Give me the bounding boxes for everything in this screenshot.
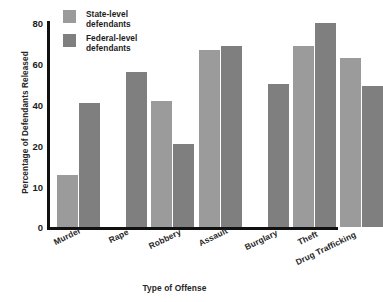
bar-drug-trafficking-federal	[362, 86, 383, 227]
y-tick-60: 60	[32, 58, 43, 69]
y-tick-40: 40	[32, 99, 43, 110]
y-tick-10: 10	[32, 181, 43, 192]
bar-assault-federal	[221, 46, 242, 227]
x-category-labels: MurderRapeRobberyAssaultBurglaryTheftDru…	[47, 228, 349, 284]
x-label-assault: Assault	[197, 225, 229, 248]
legend-item-federal-level: Federal-leveldefendants	[63, 33, 208, 54]
legend-item-state-level: State-leveldefendants	[63, 9, 208, 30]
x-label-burglary: Burglary	[243, 228, 279, 252]
x-axis-title: Type of Offense	[0, 283, 349, 293]
x-label-rape: Rape	[107, 227, 130, 245]
legend-label-line1: Federal-level	[86, 33, 137, 43]
bar-robbery-federal	[173, 144, 194, 227]
legend-label: State-leveldefendants	[86, 9, 131, 30]
legend-label-line2: defendants	[86, 19, 131, 29]
chart-legend: State-leveldefendantsFederal-leveldefend…	[63, 9, 208, 56]
bar-assault-state	[199, 50, 220, 227]
legend-swatch-icon	[63, 34, 76, 47]
legend-label: Federal-leveldefendants	[86, 33, 137, 54]
y-axis-title: Percentage of Defendants Released	[21, 28, 30, 218]
bar-robbery-state	[151, 101, 172, 227]
legend-swatch-icon	[63, 10, 76, 23]
x-label-robbery: Robbery	[147, 227, 183, 251]
bar-murder-state	[57, 175, 78, 227]
legend-label-line1: State-level	[86, 9, 131, 19]
bar-theft-federal	[315, 23, 336, 227]
y-tick-20: 20	[32, 141, 43, 152]
bar-murder-federal	[79, 103, 100, 227]
bar-drug-trafficking-state	[340, 58, 361, 227]
y-tick-0: 0	[38, 222, 43, 233]
bar-burglary-federal	[268, 84, 289, 227]
x-label-theft: Theft	[296, 229, 319, 247]
bar-theft-state	[293, 46, 314, 227]
x-label-murder: Murder	[52, 225, 82, 247]
bar-rape-federal	[126, 72, 147, 227]
y-tick-80: 80	[32, 18, 43, 29]
legend-label-line2: defendants	[86, 43, 137, 53]
